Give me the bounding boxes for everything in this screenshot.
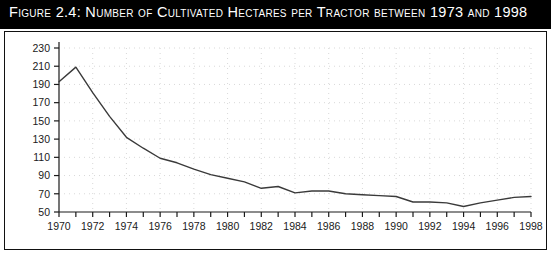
y-axis-tick-label: 110 [33,151,50,163]
x-axis-tick-label: 1986 [317,220,341,232]
y-axis-tick-label: 170 [32,96,50,108]
line-chart: 5070901101301501701902102301970197219741… [5,32,545,248]
figure-title: Figure 2.4: Number of Cultivated Hectare… [9,4,528,20]
y-axis-tick-label: 190 [32,78,50,90]
x-axis-tick-label: 1990 [384,220,408,232]
x-axis-tick-label: 1980 [216,220,240,232]
x-axis-tick-label: 1974 [115,220,139,232]
y-axis-tick-label: 90 [38,169,50,181]
figure-container: Figure 2.4: Number of Cultivated Hectare… [0,0,551,254]
y-axis-tick-label: 70 [38,188,50,200]
chart-panel: 5070901101301501701902102301970197219741… [4,31,547,250]
x-axis-tick-label: 1992 [418,220,442,232]
figure-title-bar: Figure 2.4: Number of Cultivated Hectare… [0,0,551,29]
x-axis-tick-label: 1972 [81,220,105,232]
y-axis-tick-label: 230 [32,42,50,54]
x-axis-tick-label: 1996 [486,220,510,232]
x-axis-tick-label: 1976 [148,220,172,232]
y-axis-tick-label: 210 [32,60,50,72]
y-axis-tick-label: 50 [38,206,50,218]
x-axis-tick-label: 1994 [452,220,476,232]
y-axis-tick-label: 130 [32,133,50,145]
x-axis-tick-label: 1970 [47,220,71,232]
x-axis-tick-label: 1984 [283,220,307,232]
x-axis-tick-label: 1988 [351,220,375,232]
y-axis-tick-label: 150 [32,115,50,127]
x-axis-tick-label: 1978 [182,220,206,232]
x-axis-tick-label: 1998 [519,220,543,232]
x-axis-tick-label: 1982 [250,220,274,232]
